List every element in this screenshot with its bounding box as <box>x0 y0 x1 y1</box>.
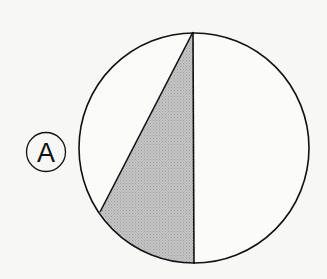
diagram-canvas: A <box>0 0 327 279</box>
label-letter: A <box>37 138 55 168</box>
option-label: A <box>27 133 66 172</box>
diameter-line <box>193 32 194 264</box>
circle-diagram: A <box>0 0 327 279</box>
